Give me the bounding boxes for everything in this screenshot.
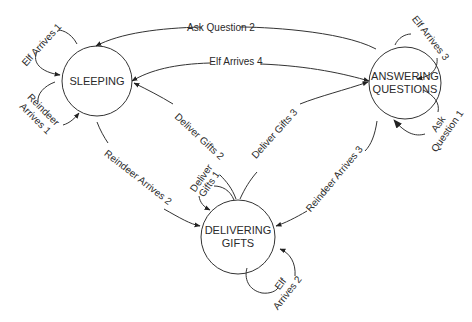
label-elf-arrives-1: Elf Arrives 1 [19, 21, 63, 68]
transition-reindeer-arrives-2: Reindeer Arrives 2 [97, 122, 200, 226]
state-sleeping-label: SLEEPING [69, 75, 124, 87]
edge-line [365, 121, 377, 151]
edge-arrow [280, 249, 295, 276]
edge-arrow [394, 120, 425, 135]
edge-line [240, 172, 257, 199]
label-deliver-gifts-2: Deliver Gifts 2 [173, 111, 227, 162]
label-deliver-gifts-3: Deliver Gifts 3 [249, 106, 299, 160]
transition-reindeer-arrives-3: Reindeer Arrives 3 [276, 121, 377, 226]
state-delivering-label-line2: GIFTS [222, 237, 254, 249]
state-answering-questions: ANSWERING QUESTIONS [369, 47, 441, 119]
label-reindeer-arrives-2: Reindeer Arrives 2 [102, 148, 174, 208]
transition-elf-arrives-4: Elf Arrives 4 [132, 56, 369, 81]
edge-arrow [276, 211, 307, 226]
edge-arrow [300, 82, 368, 104]
edge-arrow [164, 209, 200, 226]
label-reindeer-arrives-3: Reindeer Arrives 3 [304, 143, 366, 213]
transition-deliver-gifts-3: Deliver Gifts 3 [240, 82, 368, 199]
edge-arrow-to-answering [261, 64, 369, 81]
edge-line [97, 122, 108, 143]
state-diagram: SLEEPING ANSWERING QUESTIONS DELIVERING … [0, 0, 472, 322]
state-answering-label-line2: QUESTIONS [373, 83, 438, 95]
state-answering-label-line1: ANSWERING [371, 70, 439, 82]
state-delivering-label-line1: DELIVERING [205, 224, 272, 236]
edge-arrow [134, 83, 173, 104]
edge-line [240, 27, 376, 49]
label-elf-arrives-4: Elf Arrives 4 [209, 56, 263, 67]
edge-arrow [36, 52, 60, 75]
state-sleeping: SLEEPING [62, 46, 132, 116]
edge-arrow [63, 113, 79, 125]
edge-arrow-to-sleeping [132, 63, 210, 81]
edge-line [58, 30, 77, 44]
edge-arrow [96, 27, 202, 46]
edge-line [395, 34, 411, 45]
state-delivering-gifts: DELIVERING GIFTS [201, 200, 275, 274]
label-ask-question-2: Ask Question 2 [187, 22, 255, 33]
transition-ask-question-2: Ask Question 2 [96, 22, 376, 49]
